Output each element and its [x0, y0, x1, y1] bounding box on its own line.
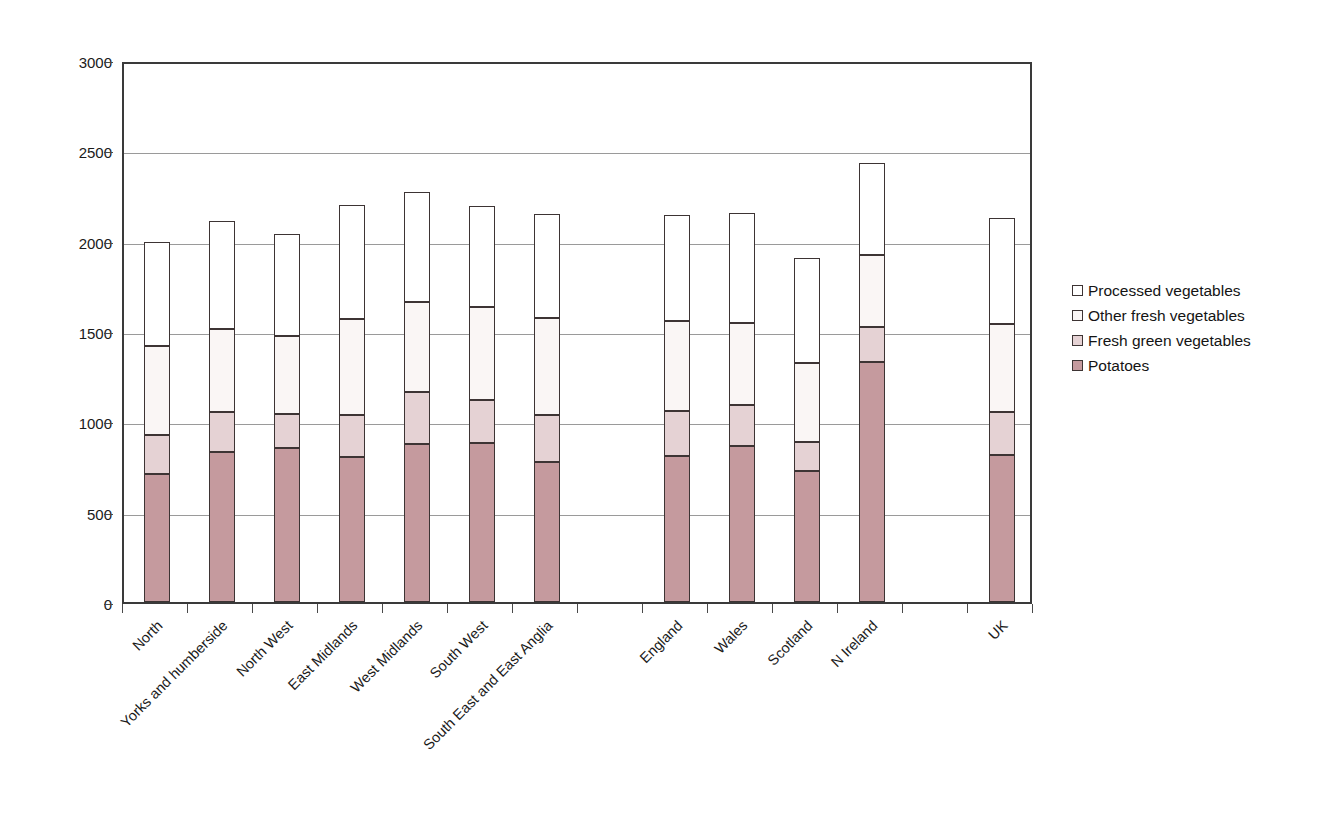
bar-segment-other-fresh-vegetables[interactable]	[729, 323, 755, 405]
bar-north[interactable]	[144, 242, 170, 602]
bar-segment-other-fresh-vegetables[interactable]	[534, 318, 560, 415]
chart-legend: Processed vegetablesOther fresh vegetabl…	[1072, 278, 1322, 378]
y-axis-tick-mark	[104, 333, 113, 334]
legend-item-label: Potatoes	[1088, 358, 1149, 374]
bar-uk[interactable]	[989, 218, 1015, 602]
x-axis-category-label: UK	[717, 618, 1010, 831]
bar-north-west[interactable]	[274, 234, 300, 602]
bar-segment-fresh-green-vegetables[interactable]	[404, 392, 430, 444]
x-axis-labels: NorthYorks and humbersideNorth WestEast …	[0, 604, 1326, 824]
bar-segment-fresh-green-vegetables[interactable]	[989, 412, 1015, 454]
bar-segment-potatoes[interactable]	[859, 362, 885, 602]
bar-segment-potatoes[interactable]	[469, 443, 495, 602]
bar-segment-fresh-green-vegetables[interactable]	[469, 400, 495, 443]
bar-segment-other-fresh-vegetables[interactable]	[794, 363, 820, 442]
bar-segment-other-fresh-vegetables[interactable]	[209, 329, 235, 412]
gridline	[124, 153, 1030, 154]
bar-south-east-and-east-anglia[interactable]	[534, 214, 560, 602]
bar-segment-potatoes[interactable]	[339, 457, 365, 602]
bar-scotland[interactable]	[794, 258, 820, 602]
gridline	[124, 334, 1030, 335]
bar-east-midlands[interactable]	[339, 205, 365, 602]
bar-segment-other-fresh-vegetables[interactable]	[274, 336, 300, 415]
bar-segment-potatoes[interactable]	[534, 462, 560, 602]
bar-yorks-and-humberside[interactable]	[209, 221, 235, 602]
legend-item-label: Processed vegetables	[1088, 283, 1241, 299]
bar-segment-other-fresh-vegetables[interactable]	[339, 319, 365, 415]
y-axis-tick-mark	[104, 152, 113, 153]
legend-item-potatoes[interactable]: Potatoes	[1072, 353, 1322, 378]
bar-west-midlands[interactable]	[404, 192, 430, 602]
bar-segment-processed-vegetables[interactable]	[469, 206, 495, 306]
bar-segment-fresh-green-vegetables[interactable]	[794, 442, 820, 471]
legend-item-label: Fresh green vegetables	[1088, 333, 1251, 349]
gridline	[124, 515, 1030, 516]
bar-segment-other-fresh-vegetables[interactable]	[989, 324, 1015, 413]
bar-segment-potatoes[interactable]	[404, 444, 430, 602]
bar-segment-processed-vegetables[interactable]	[404, 192, 430, 302]
bar-segment-potatoes[interactable]	[729, 446, 755, 602]
bar-segment-fresh-green-vegetables[interactable]	[339, 415, 365, 457]
bar-segment-processed-vegetables[interactable]	[729, 213, 755, 323]
bar-segment-fresh-green-vegetables[interactable]	[859, 327, 885, 361]
y-axis-tick-mark	[104, 514, 113, 515]
y-axis-tick-mark	[104, 243, 113, 244]
bar-segment-processed-vegetables[interactable]	[339, 205, 365, 320]
bar-segment-fresh-green-vegetables[interactable]	[144, 435, 170, 474]
bar-segment-processed-vegetables[interactable]	[859, 163, 885, 255]
gridline	[124, 424, 1030, 425]
bar-segment-potatoes[interactable]	[274, 448, 300, 602]
bar-segment-potatoes[interactable]	[664, 456, 690, 602]
bar-south-west[interactable]	[469, 206, 495, 602]
bar-segment-processed-vegetables[interactable]	[144, 242, 170, 346]
bar-segment-processed-vegetables[interactable]	[794, 258, 820, 363]
legend-swatch-icon	[1072, 360, 1083, 371]
legend-swatch-icon	[1072, 335, 1083, 346]
bar-segment-processed-vegetables[interactable]	[274, 234, 300, 335]
legend-swatch-icon	[1072, 285, 1083, 296]
plot-area	[122, 62, 1032, 604]
bar-segment-fresh-green-vegetables[interactable]	[209, 412, 235, 452]
bar-segment-other-fresh-vegetables[interactable]	[144, 346, 170, 435]
bar-segment-potatoes[interactable]	[989, 455, 1015, 602]
bar-segment-processed-vegetables[interactable]	[209, 221, 235, 329]
bar-segment-fresh-green-vegetables[interactable]	[534, 415, 560, 462]
bar-segment-fresh-green-vegetables[interactable]	[274, 414, 300, 448]
bar-segment-other-fresh-vegetables[interactable]	[469, 307, 495, 400]
bar-segment-potatoes[interactable]	[209, 452, 235, 602]
bar-segment-processed-vegetables[interactable]	[989, 218, 1015, 324]
bar-segment-potatoes[interactable]	[144, 474, 170, 602]
bar-segment-potatoes[interactable]	[794, 471, 820, 602]
bar-segment-other-fresh-vegetables[interactable]	[859, 255, 885, 327]
bar-segment-other-fresh-vegetables[interactable]	[664, 321, 690, 411]
bar-segment-processed-vegetables[interactable]	[534, 214, 560, 319]
stacked-bar-chart: 050010001500200025003000 NorthYorks and …	[0, 0, 1326, 831]
y-axis-tick-mark	[104, 62, 113, 63]
bar-wales[interactable]	[729, 213, 755, 602]
bar-segment-fresh-green-vegetables[interactable]	[729, 405, 755, 446]
y-axis: 050010001500200025003000	[48, 62, 112, 604]
x-axis-category-label: North	[0, 618, 165, 831]
bar-segment-other-fresh-vegetables[interactable]	[404, 302, 430, 391]
bar-segment-processed-vegetables[interactable]	[664, 215, 690, 321]
gridline	[124, 244, 1030, 245]
legend-item-label: Other fresh vegetables	[1088, 308, 1245, 324]
y-axis-tick-mark	[104, 423, 113, 424]
legend-item-processed[interactable]: Processed vegetables	[1072, 278, 1322, 303]
bar-n-ireland[interactable]	[859, 163, 885, 602]
legend-swatch-icon	[1072, 310, 1083, 321]
bar-england[interactable]	[664, 215, 690, 602]
legend-item-fresh-green[interactable]: Fresh green vegetables	[1072, 328, 1322, 353]
legend-item-other-fresh[interactable]: Other fresh vegetables	[1072, 303, 1322, 328]
bar-segment-fresh-green-vegetables[interactable]	[664, 411, 690, 455]
